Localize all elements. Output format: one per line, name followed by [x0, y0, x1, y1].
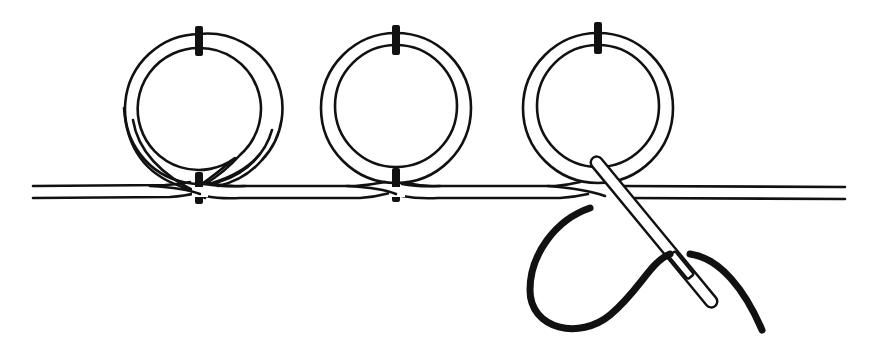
tack-stitch-top [195, 26, 203, 56]
laid-cord [33, 182, 845, 199]
needle [588, 154, 719, 310]
loop-2 [321, 25, 471, 202]
tack-stitch-top [392, 25, 400, 55]
loop-1 [124, 26, 282, 204]
tack-stitch-top [594, 22, 602, 54]
couching-stitch-diagram [0, 0, 878, 360]
